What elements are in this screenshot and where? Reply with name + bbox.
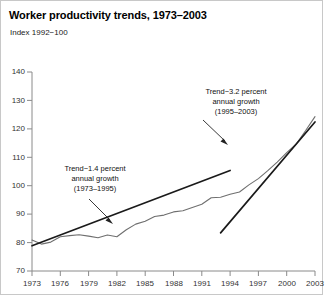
y-tick-label: 120 xyxy=(3,124,25,133)
annotation-first-line1: Trend−1.4 percent xyxy=(36,164,154,174)
x-axis-ticks xyxy=(32,271,315,276)
y-tick-label: 90 xyxy=(3,209,25,218)
x-tick-label: 1976 xyxy=(45,279,75,288)
annotation-second-line1: Trend−3.2 percent xyxy=(177,87,295,97)
annotation-second-line2: annual growth xyxy=(177,97,295,107)
x-tick-label: 1991 xyxy=(187,279,217,288)
x-tick-label: 1979 xyxy=(74,279,104,288)
x-tick-label: 1973 xyxy=(17,279,47,288)
y-tick-label: 100 xyxy=(3,181,25,190)
x-tick-label: 1988 xyxy=(159,279,189,288)
annotation-first-line2: annual growth xyxy=(36,174,154,184)
annotation-second-line3: (1995–2003) xyxy=(177,107,295,117)
x-tick-label: 2000 xyxy=(272,279,302,288)
x-tick-label: 1982 xyxy=(102,279,132,288)
y-tick-label: 110 xyxy=(3,153,25,162)
y-tick-label: 70 xyxy=(3,266,25,275)
trend-line-second-period xyxy=(221,122,315,233)
x-tick-label: 1994 xyxy=(215,279,245,288)
annotation-arrow-second xyxy=(203,120,228,145)
chart-figure: Worker productivity trends, 1973–2003 In… xyxy=(1,1,322,294)
y-tick-label: 80 xyxy=(3,238,25,247)
y-axis-ticks xyxy=(27,72,32,271)
x-tick-label: 1985 xyxy=(130,279,160,288)
annotation-first-line3: (1973–1995) xyxy=(36,184,154,194)
y-tick-label: 130 xyxy=(3,96,25,105)
annotation-first-period: Trend−1.4 percent annual growth (1973–19… xyxy=(36,164,154,194)
y-tick-label: 140 xyxy=(3,67,25,76)
x-tick-label: 1997 xyxy=(243,279,273,288)
chart-plot-area xyxy=(1,1,322,294)
x-tick-label: 2003 xyxy=(300,279,329,288)
annotation-second-period: Trend−3.2 percent annual growth (1995–20… xyxy=(177,87,295,117)
